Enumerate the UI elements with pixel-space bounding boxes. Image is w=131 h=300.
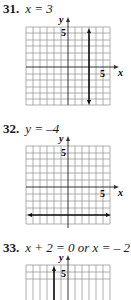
x-tick-label: 5 xyxy=(100,68,105,79)
x-tick-label: 5 xyxy=(100,188,105,199)
y-axis-arrow-icon xyxy=(66,255,70,260)
graph-33: y 5 xyxy=(0,250,128,300)
y-axis-label: y xyxy=(58,252,64,263)
graph-32: y x 5 5 xyxy=(0,120,128,230)
line-arrow-down-icon xyxy=(87,100,91,105)
y-axis-label: y xyxy=(58,14,64,25)
y-axis-arrow-icon xyxy=(66,17,70,22)
y-tick-label: 5 xyxy=(61,268,66,279)
line-arrow-up-icon xyxy=(52,266,56,271)
line-arrow-left-icon xyxy=(27,213,32,217)
y-tick-label: 5 xyxy=(61,27,66,38)
y-axis-label: y xyxy=(58,133,64,144)
y-axis-arrow-icon xyxy=(66,136,70,141)
x-axis-label: x xyxy=(117,67,123,78)
plotted-line-x-equals-neg2 xyxy=(52,266,56,300)
x-axis-label: x xyxy=(117,187,123,198)
line-arrow-up-icon xyxy=(87,28,91,33)
graph-31: y x 5 5 xyxy=(0,0,128,110)
y-tick-label: 5 xyxy=(61,147,66,158)
